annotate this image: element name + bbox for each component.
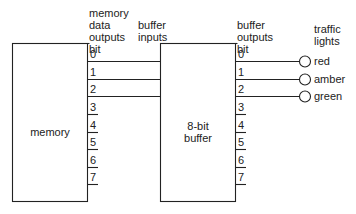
header-line: memory: [89, 7, 129, 19]
memory-bit-7: 7: [90, 172, 96, 183]
memory-bit-6: 6: [90, 155, 96, 166]
buffer-bit-1: 1: [238, 67, 244, 78]
memory-bit-2: 2: [90, 84, 96, 95]
traffic-lights-header: traffic lights: [314, 23, 341, 47]
buffer-inputs-header: buffer inputs: [138, 19, 167, 43]
amber-light-icon: [300, 74, 311, 85]
header-line: outputs: [237, 31, 273, 43]
buffer-bit-3: 3: [238, 102, 244, 113]
memory-bit-5: 5: [90, 137, 96, 148]
header-line: traffic: [314, 23, 341, 35]
buffer-bit-0: 0: [238, 49, 244, 60]
memory-bit-3: 3: [90, 102, 96, 113]
header-line: lights: [314, 35, 341, 47]
buffer-bit-7: 7: [238, 172, 244, 183]
buffer-bit-4: 4: [238, 120, 244, 131]
buffer-bit-2: 2: [238, 84, 244, 95]
red-light-icon: [300, 56, 311, 67]
buffer-label-line1: 8-bit: [160, 120, 236, 132]
header-line: data: [89, 19, 129, 31]
buffer-bit-5: 5: [238, 137, 244, 148]
buffer-bit-6: 6: [238, 155, 244, 166]
light-label-green: green: [314, 90, 342, 102]
header-line: outputs: [89, 31, 129, 43]
buffer-label-line2: buffer: [160, 132, 236, 144]
memory-block-label: memory: [12, 126, 88, 138]
light-label-red: red: [314, 55, 330, 67]
header-line: buffer: [237, 19, 273, 31]
light-label-amber: amber: [314, 73, 345, 85]
memory-bit-1: 1: [90, 67, 96, 78]
header-line: inputs: [138, 31, 167, 43]
buffer-block-label: 8-bit buffer: [160, 120, 236, 144]
memory-bit-0: 0: [90, 49, 96, 60]
green-light-icon: [300, 91, 311, 102]
diagram-wiring: [0, 0, 356, 214]
memory-bit-4: 4: [90, 120, 96, 131]
memory-block: [13, 44, 88, 202]
header-line: buffer: [138, 19, 167, 31]
